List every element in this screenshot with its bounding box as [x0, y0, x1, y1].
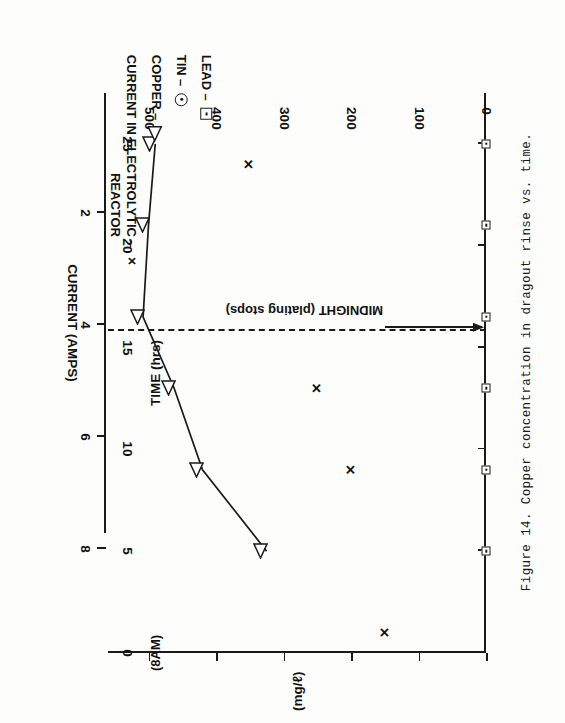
- current-tick-label: 6: [78, 433, 93, 441]
- current-tick: [97, 547, 106, 549]
- current-tick-label: 2: [78, 209, 93, 217]
- legend-item: COPPER–: [148, 55, 164, 271]
- legend-label: TIN: [173, 55, 189, 76]
- rotated-figure: 2468 CURRENT (AMPS) 0510152025 010020030…: [0, 0, 565, 723]
- legend-dash: –: [199, 90, 214, 104]
- legend-square-icon: [199, 104, 214, 124]
- y-tick: [486, 653, 488, 661]
- legend-triangle-icon: [149, 124, 164, 144]
- y-tick: [284, 653, 286, 661]
- current-tick: [97, 211, 106, 213]
- y-tick: [216, 653, 218, 661]
- legend-dash: –: [174, 76, 189, 90]
- current-tick: [97, 323, 106, 325]
- legend-item: LEAD–: [198, 55, 214, 271]
- figure-caption: Figure 14. Copper concentration in drago…: [507, 0, 547, 723]
- current-axis-title: CURRENT (AMPS): [65, 264, 80, 382]
- current-tick-label: 8: [78, 545, 93, 553]
- arrow-head: [473, 323, 484, 332]
- legend-label: LEAD: [198, 55, 214, 90]
- figure-page: 2468 CURRENT (AMPS) 0510152025 010020030…: [0, 0, 565, 723]
- current-tick-label: 4: [78, 321, 93, 329]
- legend-x-icon: ×: [124, 251, 139, 271]
- midnight-label: MIDNIGHT (plating stops): [226, 303, 383, 318]
- legend: CURRENT IN ELECTROLYTIC REACTOR–×COPPER–…: [106, 55, 223, 271]
- legend-item: CURRENT IN ELECTROLYTIC REACTOR–×: [106, 55, 139, 271]
- y-tick: [419, 653, 421, 661]
- legend-dash: –: [149, 110, 164, 124]
- y-axis-title: (mg/ℓ): [290, 671, 305, 711]
- legend-label: CURRENT IN ELECTROLYTIC REACTOR: [106, 55, 139, 237]
- y-tick: [351, 653, 353, 661]
- legend-item: TIN–: [173, 55, 189, 271]
- figure-caption-text: Figure 14. Copper concentration in drago…: [520, 132, 534, 590]
- legend-circle-icon: [174, 90, 189, 110]
- current-axis: 2468 CURRENT (AMPS): [62, 93, 106, 653]
- legend-label: COPPER: [148, 55, 164, 110]
- current-tick: [97, 435, 106, 437]
- legend-dash: –: [124, 237, 139, 251]
